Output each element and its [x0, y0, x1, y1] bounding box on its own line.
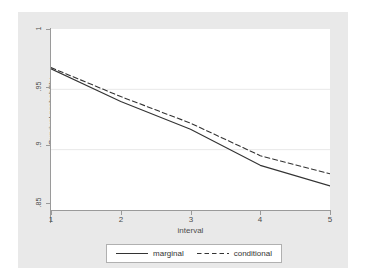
x-tick-label-3: 3: [184, 215, 198, 224]
series-line-conditional: [51, 68, 330, 174]
legend: marginal conditional: [106, 244, 282, 263]
series-line-marginal: [51, 69, 330, 186]
y-tick-label-1: 1: [35, 21, 42, 37]
dashed-line-icon: [197, 250, 229, 257]
legend-entry-conditional[interactable]: conditional: [197, 249, 272, 258]
x-tick-label-2: 2: [114, 215, 128, 224]
plot-svg: [51, 29, 330, 210]
series-lines: [51, 68, 330, 186]
chart-figure: Survival probability 1 .95 .9 .85 1 2 3 …: [0, 0, 367, 280]
legend-label-marginal: marginal: [153, 249, 184, 258]
x-axis-title: interval: [51, 226, 330, 235]
y-tick-label-95: .95: [35, 79, 42, 95]
gridlines: [51, 89, 330, 149]
solid-line-icon: [116, 250, 148, 257]
x-tick-label-5: 5: [323, 215, 337, 224]
legend-label-conditional: conditional: [234, 249, 272, 258]
legend-entry-marginal[interactable]: marginal: [116, 249, 184, 258]
x-tick-label-4: 4: [253, 215, 267, 224]
y-tick-label-9: .9: [35, 137, 42, 153]
plot-area: [51, 29, 330, 210]
y-tick-label-85: .85: [35, 195, 42, 211]
graph-region: Survival probability 1 .95 .9 .85 1 2 3 …: [18, 12, 348, 268]
x-tick-label-1: 1: [44, 215, 58, 224]
